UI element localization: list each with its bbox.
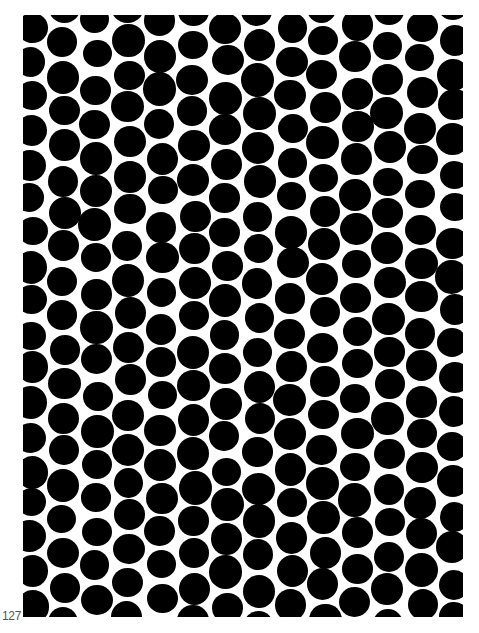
pattern-dot [114, 61, 145, 90]
pattern-dot [178, 31, 208, 60]
pattern-dot [242, 437, 273, 467]
pattern-dot [436, 228, 463, 259]
pattern-dot [244, 234, 273, 263]
pattern-dot [48, 166, 78, 197]
pattern-dot [23, 386, 47, 419]
pattern-dot [47, 61, 79, 94]
pattern-dot [48, 230, 80, 261]
pattern-dot [114, 194, 145, 224]
pattern-dot [274, 319, 305, 349]
pattern-dot [78, 208, 111, 241]
pattern-dot [407, 145, 438, 175]
pattern-dot [439, 570, 463, 600]
pattern-dot [212, 458, 242, 487]
pattern-dot [339, 587, 370, 617]
pattern-dot [23, 322, 46, 351]
pattern-dot [342, 111, 374, 142]
pattern-dot [372, 64, 403, 95]
pattern-dot [342, 517, 373, 548]
pattern-dot [114, 499, 145, 530]
pattern-dot [372, 198, 403, 228]
pattern-dot [49, 15, 80, 23]
pattern-dot [306, 126, 338, 159]
pattern-dot [146, 347, 177, 377]
pattern-dot [339, 41, 371, 72]
pattern-dot [81, 415, 114, 448]
pattern-dot [278, 114, 308, 144]
pattern-dot [114, 126, 146, 157]
pattern-dot [310, 196, 339, 227]
pattern-dot [148, 381, 178, 410]
pattern-dot [275, 283, 306, 314]
pattern-dot [47, 300, 77, 329]
pattern-dot [211, 149, 242, 180]
pattern-dot [23, 555, 48, 587]
pattern-dot [23, 15, 48, 43]
pattern-dot [178, 130, 210, 161]
pattern-dot [436, 531, 463, 563]
pattern-dot [209, 353, 241, 384]
pattern-dot [276, 522, 307, 554]
pattern-dot [437, 328, 463, 357]
pattern-dot [306, 467, 339, 500]
pattern-dot [47, 27, 78, 57]
pattern-dot [244, 165, 276, 198]
pattern-dot [146, 212, 176, 243]
pattern-dot [440, 502, 463, 532]
pattern-dot [405, 248, 438, 279]
pattern-dot [273, 384, 306, 416]
pattern-dot [177, 96, 207, 126]
pattern-dot [23, 456, 48, 489]
pattern-dot [276, 47, 307, 78]
pattern-dot [23, 590, 49, 617]
pattern-dot [147, 584, 178, 614]
pattern-dot [147, 278, 176, 307]
pattern-dot [310, 537, 341, 569]
pattern-dot [212, 593, 243, 617]
dot-pattern-frame [23, 15, 463, 617]
pattern-dot [242, 473, 275, 505]
pattern-dot [404, 487, 436, 519]
pattern-dot [275, 216, 307, 248]
pattern-dot [143, 72, 176, 106]
pattern-dot [371, 232, 402, 264]
pattern-dot [144, 449, 176, 481]
pattern-dot [144, 516, 175, 547]
pattern-dot [405, 44, 435, 72]
pattern-dot [177, 605, 209, 617]
pattern-dot [307, 15, 336, 23]
pattern-dot [437, 432, 464, 462]
pattern-dot [275, 589, 306, 617]
pattern-dot [50, 573, 80, 603]
pattern-dot [278, 15, 307, 43]
pattern-dot [49, 96, 79, 125]
pattern-dot [83, 382, 113, 411]
pattern-dot [307, 501, 340, 534]
pattern-dot [278, 148, 308, 178]
pattern-dot [148, 176, 178, 204]
pattern-dot [404, 113, 436, 144]
pattern-dot [180, 201, 211, 232]
pattern-dot [209, 114, 241, 145]
pattern-dot [370, 97, 403, 129]
pattern-dot [306, 263, 339, 296]
pattern-dot [177, 437, 209, 470]
pattern-dot [405, 180, 435, 208]
pattern-dot [375, 369, 405, 399]
pattern-dot [373, 168, 403, 197]
pattern-dot [310, 366, 339, 396]
pattern-dot [243, 539, 273, 570]
pattern-dot [374, 439, 405, 470]
pattern-dot [374, 542, 404, 572]
pattern-dot [209, 421, 239, 451]
pattern-dot [342, 554, 374, 584]
pattern-dot [114, 468, 143, 499]
pattern-dot [277, 247, 309, 278]
pattern-dot [83, 40, 112, 68]
pattern-dot [342, 78, 374, 110]
pattern-dot [212, 251, 243, 281]
pattern-dot [23, 115, 47, 146]
pattern-dot [23, 150, 46, 182]
pattern-dot [177, 164, 209, 196]
pattern-dot [79, 110, 110, 139]
